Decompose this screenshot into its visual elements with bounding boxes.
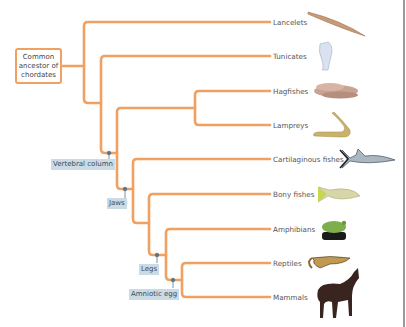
taxon-label-tunicates: Tunicates	[273, 52, 307, 61]
taxon-label-lampreys: Lampreys	[273, 121, 308, 130]
lizard-icon	[309, 257, 350, 269]
taxon-label-cartilaginous-fishes: Cartilaginous fishes	[273, 155, 344, 164]
bony-fish-icon	[318, 187, 360, 202]
lancelet-icon	[308, 12, 365, 36]
ancestor-line-3: chordates	[21, 71, 56, 79]
trait-label-vertebral-column: Vertebral column	[51, 159, 115, 170]
trait-label-amniotic-egg: Amniotic egg	[129, 289, 179, 300]
tunicate-icon	[319, 42, 332, 70]
common-ancestor-box: Common ancestor of chordates	[15, 48, 62, 84]
taxon-label-bony-fishes: Bony fishes	[273, 190, 314, 199]
trait-label-jaws: Jaws	[107, 198, 127, 209]
shark-icon	[340, 149, 395, 168]
taxon-label-lancelets: Lancelets	[273, 18, 307, 27]
lamprey-icon	[314, 112, 351, 137]
hagfish-icon	[314, 83, 358, 99]
cladogram: Common ancestor of chordates Lancelets T…	[0, 0, 406, 327]
trait-label-legs: Legs	[139, 264, 159, 275]
taxon-label-reptiles: Reptiles	[273, 259, 302, 268]
taxon-label-amphibians: Amphibians	[273, 225, 315, 234]
taxon-label-hagfishes: Hagfishes	[273, 87, 308, 96]
ancestor-line-1: Common	[23, 53, 55, 61]
common-ancestor-label: Common ancestor of chordates	[19, 53, 58, 80]
right-border-rule	[403, 0, 405, 327]
horse-icon	[317, 268, 359, 318]
taxon-label-mammals: Mammals	[273, 293, 308, 302]
ancestor-line-2: ancestor of	[19, 62, 58, 70]
frog-icon	[322, 221, 346, 240]
